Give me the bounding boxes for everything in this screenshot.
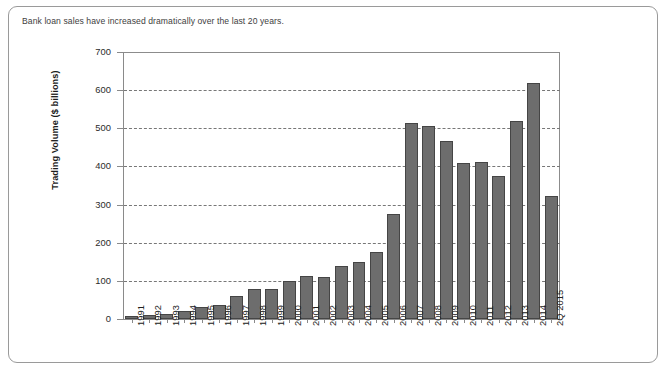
x-tick-2007 [411, 319, 412, 323]
bar-2011 [475, 162, 488, 319]
x-axis-label-1993: 1993 [171, 305, 181, 326]
y-axis-label: 700 [71, 46, 111, 57]
x-tick-2002 [324, 319, 325, 323]
x-axis-label-1999: 1999 [276, 305, 286, 326]
x-axis-label-2005: 2005 [380, 305, 390, 326]
x-tick-1998 [254, 319, 255, 323]
x-axis-label-2010: 2010 [468, 305, 478, 326]
y-axis-label: 300 [71, 199, 111, 210]
x-tick-2012 [499, 319, 500, 323]
x-axis-label-2013: 2013 [520, 305, 530, 326]
y-axis-title: Trading Volume ($ billions) [50, 50, 60, 210]
x-tick-2001 [307, 319, 308, 323]
chart-frame: Bank loan sales have increased dramatica… [8, 6, 658, 363]
x-tick-2010 [464, 319, 465, 323]
x-axis-label-2001: 2001 [311, 305, 321, 326]
x-axis-label-1995: 1995 [206, 305, 216, 326]
x-tick-2014 [534, 319, 535, 323]
x-tick-2003 [342, 319, 343, 323]
x-axis-label-2000: 2000 [293, 305, 303, 326]
y-axis-label: 0 [71, 313, 111, 324]
x-axis-label-2004: 2004 [363, 305, 373, 326]
x-axis-label-2011: 2011 [485, 306, 495, 326]
x-axis-label-1998: 1998 [258, 305, 268, 326]
bar-2014 [527, 83, 540, 319]
y-axis-label: 600 [71, 84, 111, 95]
x-tick-1995 [202, 319, 203, 323]
x-tick-2000 [289, 319, 290, 323]
x-tick-1999 [272, 319, 273, 323]
y-tick-0 [117, 319, 124, 320]
y-axis-label: 100 [71, 275, 111, 286]
x-axis-label-1992: 1992 [153, 305, 163, 326]
x-tick-2006 [394, 319, 395, 323]
bar-2009 [440, 141, 453, 319]
x-axis-label-2006: 2006 [398, 305, 408, 326]
x-axis-label-2008: 2008 [433, 305, 443, 326]
x-tick-1996 [219, 319, 220, 323]
x-tick-1997 [237, 319, 238, 323]
x-tick-2004 [359, 319, 360, 323]
x-axis-label-2002: 2002 [328, 305, 338, 326]
y-axis-label: 500 [71, 122, 111, 133]
bars-group [123, 52, 560, 319]
x-axis-label-2009: 2009 [450, 305, 460, 326]
bar-2006 [387, 214, 400, 319]
x-axis-label-2014: 2014 [538, 305, 548, 326]
x-axis-label-2007: 2007 [415, 305, 425, 326]
bar-2012 [492, 176, 505, 319]
x-tick-1991 [132, 319, 133, 323]
x-axis-label-2003: 2003 [346, 305, 356, 326]
x-axis-label-1997: 1997 [241, 305, 251, 326]
bar-2010 [457, 163, 470, 319]
x-tick-2009 [446, 319, 447, 323]
x-tick-1992 [149, 319, 150, 323]
x-tick-1993 [167, 319, 168, 323]
bar-2007 [405, 123, 418, 319]
bar-2013 [510, 121, 523, 319]
x-axis-label-2012: 2012 [503, 305, 513, 326]
x-tick-2011 [481, 319, 482, 323]
x-axis-label-1996: 1996 [223, 305, 233, 326]
x-axis-label-2Q-2015: 2Q 2015 [555, 290, 565, 326]
x-axis-label-1991: 1991 [136, 305, 146, 326]
x-tick-2008 [429, 319, 430, 323]
x-tick-1994 [184, 319, 185, 323]
y-axis-label: 200 [71, 237, 111, 248]
y-axis-label: 400 [71, 160, 111, 171]
x-axis-label-1994: 1994 [188, 305, 198, 326]
x-tick-2013 [516, 319, 517, 323]
bar-2008 [422, 126, 435, 319]
x-tick-2005 [376, 319, 377, 323]
x-tick-2Q-2015 [551, 319, 552, 323]
bar-chart: Trading Volume ($ billions) 010020030040… [9, 7, 659, 364]
